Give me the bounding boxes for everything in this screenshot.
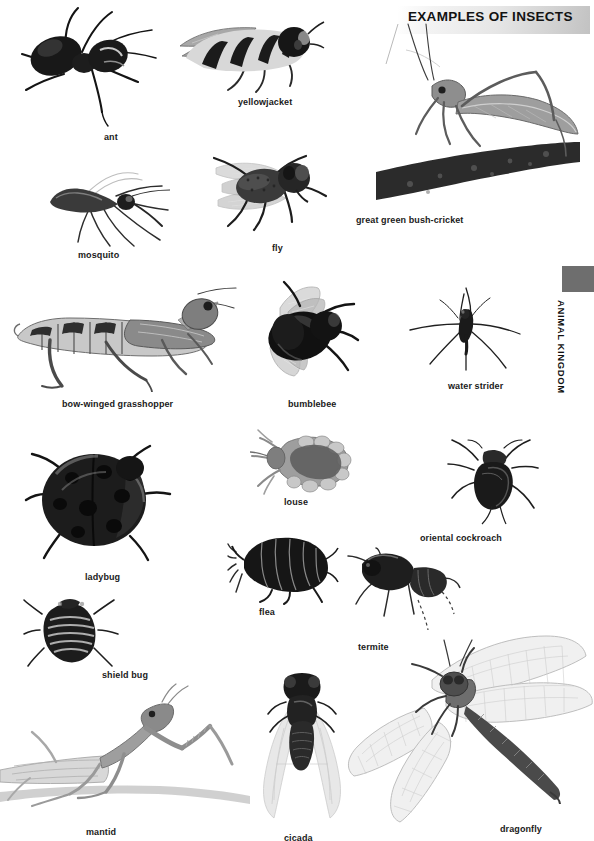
figure-cockroach	[448, 440, 540, 526]
figure-grasshopper	[12, 280, 238, 392]
figure-yellowjacket	[172, 12, 324, 94]
figure-mantid	[0, 684, 250, 826]
section-tab-label: ANIMAL KINGDOM	[556, 300, 567, 420]
caption-cicada: cicada	[284, 833, 313, 841]
caption-grasshopper: bow-winged grasshopper	[62, 399, 173, 409]
caption-cockroach: oriental cockroach	[420, 533, 502, 543]
caption-fly: fly	[272, 243, 283, 253]
figure-flea	[228, 530, 338, 604]
caption-louse: louse	[284, 497, 308, 507]
figure-dragonfly	[346, 636, 594, 826]
figure-ant	[4, 8, 164, 128]
figure-cicada	[250, 672, 354, 822]
figure-louse	[250, 428, 356, 496]
caption-ladybug: ladybug	[85, 572, 120, 582]
caption-flea: flea	[259, 607, 275, 617]
caption-bumblebee: bumblebee	[288, 399, 336, 409]
caption-mosquito: mosquito	[78, 250, 119, 260]
figure-water-strider	[408, 284, 522, 372]
caption-mantid: mantid	[86, 827, 116, 837]
caption-yellowjacket: yellowjacket	[238, 97, 292, 107]
figure-mosquito	[46, 160, 176, 248]
figure-bumblebee	[254, 282, 366, 382]
caption-dragonfly: dragonfly	[500, 824, 542, 834]
caption-bush-cricket: great green bush-cricket	[356, 215, 463, 225]
figure-fly	[188, 140, 330, 234]
figure-bush-cricket	[370, 22, 582, 214]
caption-water-strider: water strider	[448, 381, 503, 391]
caption-ant: ant	[104, 132, 118, 142]
insect-poster-page: EXAMPLES OF INSECTS ANIMAL KINGDOM	[0, 0, 594, 841]
section-tab-marker	[562, 266, 594, 292]
figure-shield-bug	[24, 598, 120, 668]
caption-shield-bug: shield bug	[102, 670, 148, 680]
figure-ladybug	[26, 438, 172, 564]
figure-termite	[348, 548, 460, 634]
